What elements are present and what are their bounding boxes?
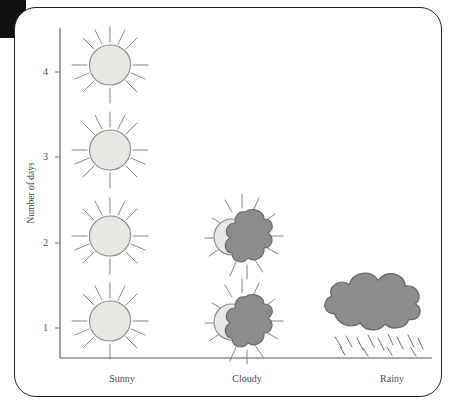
sun-icon [72,198,148,274]
sun-icon [72,283,148,359]
column-sunny [72,27,148,359]
x-axis-labels: Sunny Cloudy Rainy [109,373,404,384]
x-tick-label-sunny: Sunny [109,373,135,384]
sun-behind-cloud-icon [205,194,283,279]
y-axis-ticks: 4 3 2 1 [43,67,60,333]
column-cloudy [205,194,283,364]
rain-lines [335,334,423,356]
column-rainy [325,273,423,356]
sun-icon [72,27,148,103]
rain-cloud-icon [325,273,423,356]
screenshot-root: 4 3 2 1 Number of days Sunny Cloudy Rain… [0,0,456,410]
x-tick-label-rainy: Rainy [380,373,404,384]
y-tick-label-4: 4 [43,67,48,77]
y-tick-label-1: 1 [43,323,48,333]
y-tick-label-3: 3 [43,152,48,162]
x-tick-label-cloudy: Cloudy [232,373,261,384]
y-axis-title: Number of days [26,162,36,224]
sun-behind-cloud-icon [205,279,283,364]
y-tick-label-2: 2 [43,238,48,248]
sun-icon [72,112,148,188]
pictograph-chart: 4 3 2 1 Number of days Sunny Cloudy Rain… [0,0,456,410]
